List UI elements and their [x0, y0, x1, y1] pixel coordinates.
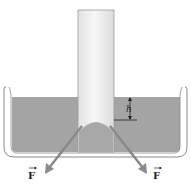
vector-arrow-left-head	[35, 167, 38, 170]
force-label-left: F	[28, 170, 35, 181]
height-label: h	[126, 104, 132, 114]
force-label-right: F	[153, 170, 160, 181]
vector-arrow-right-head	[160, 167, 163, 170]
capillary-depression-diagram: h F F	[0, 0, 191, 188]
